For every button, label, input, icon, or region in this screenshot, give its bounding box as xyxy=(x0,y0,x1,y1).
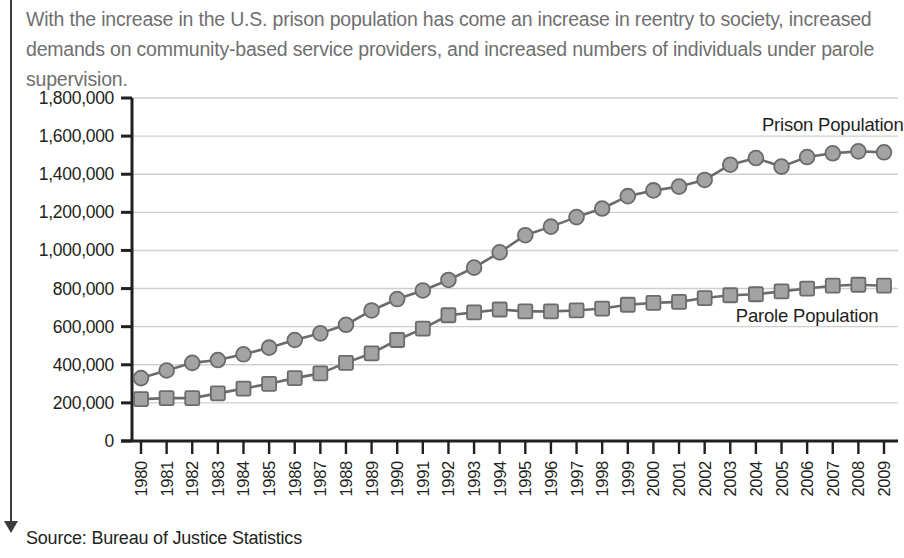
data-point-marker xyxy=(236,347,251,362)
data-point-marker xyxy=(775,284,789,298)
x-tick-label: 1988 xyxy=(337,461,355,497)
x-tick-label: 1996 xyxy=(542,461,560,497)
source-caption: Source: Bureau of Justice Statistics xyxy=(26,528,302,549)
data-point-marker xyxy=(595,302,609,316)
data-point-marker xyxy=(185,391,199,405)
x-tick-label: 1983 xyxy=(209,461,227,497)
y-tick-label: 1,400,000 xyxy=(39,164,115,184)
x-axis-ticks xyxy=(141,441,884,454)
x-tick-label: 2005 xyxy=(773,461,791,497)
data-point-marker xyxy=(364,303,379,318)
data-point-marker xyxy=(826,279,840,293)
data-point-marker xyxy=(544,304,558,318)
data-point-marker xyxy=(825,146,840,161)
x-tick-label: 1987 xyxy=(311,461,329,497)
data-point-marker xyxy=(211,386,225,400)
data-point-marker xyxy=(390,333,404,347)
data-point-marker xyxy=(236,382,250,396)
x-axis-labels: 1980198119821983198419851986198719881989… xyxy=(132,461,893,497)
x-tick-label: 1982 xyxy=(183,461,201,497)
x-tick-label: 1999 xyxy=(619,461,637,497)
data-point-marker xyxy=(467,305,481,319)
series-label: Prison Population xyxy=(762,114,904,135)
data-point-marker xyxy=(851,278,865,292)
data-point-marker xyxy=(698,291,712,305)
data-point-marker xyxy=(134,371,149,386)
data-point-marker xyxy=(493,303,507,317)
data-point-marker xyxy=(160,391,174,405)
x-tick-label: 2001 xyxy=(670,461,688,497)
data-point-marker xyxy=(800,282,814,296)
data-point-marker xyxy=(877,145,892,160)
x-tick-label: 2004 xyxy=(747,461,765,497)
data-point-marker xyxy=(723,157,738,172)
data-point-marker xyxy=(569,210,584,225)
data-point-marker xyxy=(544,219,559,234)
y-axis-ticks xyxy=(121,98,132,441)
chart-page: With the increase in the U.S. prison pop… xyxy=(0,0,904,558)
data-point-marker xyxy=(595,201,610,216)
data-point-marker xyxy=(697,173,712,188)
x-tick-label: 1981 xyxy=(158,461,176,497)
data-point-marker xyxy=(646,296,660,310)
data-point-marker xyxy=(390,292,405,307)
data-point-marker xyxy=(185,355,200,370)
y-tick-label: 1,000,000 xyxy=(39,240,115,260)
data-point-marker xyxy=(851,144,866,159)
x-tick-label: 2008 xyxy=(849,461,867,497)
data-point-marker xyxy=(415,283,430,298)
x-tick-label: 1994 xyxy=(491,461,509,497)
y-tick-label: 800,000 xyxy=(53,279,115,299)
x-tick-label: 2007 xyxy=(824,461,842,497)
x-tick-label: 1997 xyxy=(568,461,586,497)
x-tick-label: 2006 xyxy=(798,461,816,497)
y-tick-label: 1,800,000 xyxy=(39,88,115,108)
y-tick-label: 1,200,000 xyxy=(39,202,115,222)
data-point-marker xyxy=(262,377,276,391)
data-point-marker xyxy=(441,273,456,288)
data-point-marker xyxy=(621,298,635,312)
data-point-marker xyxy=(159,363,174,378)
y-tick-label: 600,000 xyxy=(53,317,115,337)
data-point-marker xyxy=(518,228,533,243)
data-point-marker xyxy=(748,151,763,166)
x-tick-label: 1993 xyxy=(465,461,483,497)
y-tick-label: 1,600,000 xyxy=(39,126,115,146)
x-tick-label: 2002 xyxy=(696,461,714,497)
x-tick-label: 2009 xyxy=(875,461,893,497)
data-point-marker xyxy=(749,287,763,301)
y-tick-label: 0 xyxy=(105,431,115,451)
data-point-marker xyxy=(288,371,302,385)
x-tick-label: 1991 xyxy=(414,461,432,497)
data-point-marker xyxy=(646,183,661,198)
series-markers xyxy=(134,144,892,406)
data-point-marker xyxy=(467,260,482,275)
data-point-marker xyxy=(570,303,584,317)
x-tick-label: 2000 xyxy=(644,461,662,497)
data-point-marker xyxy=(262,340,277,355)
x-tick-label: 1992 xyxy=(439,461,457,497)
y-tick-label: 400,000 xyxy=(53,355,115,375)
x-tick-label: 1995 xyxy=(516,461,534,497)
data-point-marker xyxy=(365,346,379,360)
data-point-marker xyxy=(518,304,532,318)
data-point-marker xyxy=(620,189,635,204)
x-tick-label: 1998 xyxy=(593,461,611,497)
x-tick-label: 2003 xyxy=(721,461,739,497)
x-tick-label: 1980 xyxy=(132,461,150,497)
data-point-marker xyxy=(416,322,430,336)
x-tick-label: 1984 xyxy=(234,461,252,497)
down-arrow-icon xyxy=(4,521,18,533)
data-point-marker xyxy=(287,333,302,348)
x-tick-label: 1989 xyxy=(363,461,381,497)
series-lines xyxy=(141,151,884,399)
data-point-marker xyxy=(134,392,148,406)
y-tick-label: 200,000 xyxy=(53,393,115,413)
data-point-marker xyxy=(210,353,225,368)
y-axis-labels: 0200,000400,000600,000800,0001,000,0001,… xyxy=(39,88,115,451)
data-point-marker xyxy=(877,279,891,293)
data-point-marker xyxy=(723,288,737,302)
data-point-marker xyxy=(313,366,327,380)
x-tick-label: 1985 xyxy=(260,461,278,497)
data-point-marker xyxy=(800,150,815,165)
